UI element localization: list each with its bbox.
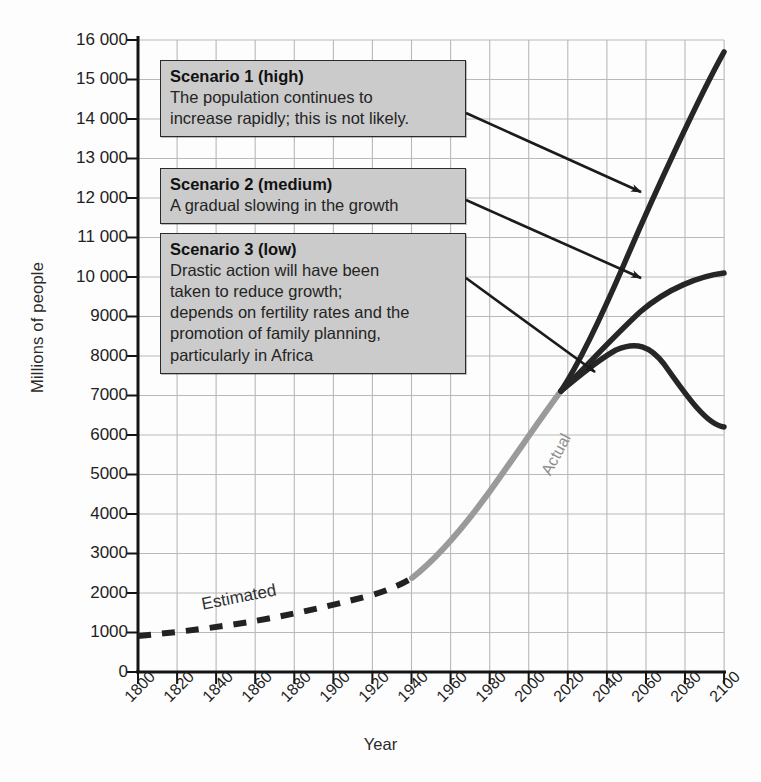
x-tick-label: 2080 (667, 668, 705, 706)
x-tick-label: 1860 (238, 668, 276, 706)
annotation-title-scenario-3: Scenario 3 (low) (170, 239, 456, 260)
annotation-box-scenario-3[interactable]: Scenario 3 (low) Drastic action will hav… (160, 233, 466, 374)
annotation-box-scenario-2[interactable]: Scenario 2 (medium) A gradual slowing in… (160, 168, 466, 224)
x-tick-label: 1880 (277, 668, 315, 706)
annotation-title-scenario-2: Scenario 2 (medium) (170, 174, 456, 195)
x-tick-label: 2020 (550, 668, 588, 706)
x-tick-label: 1900 (316, 668, 354, 706)
annotation-text-scenario-3-line-3: depends on fertility rates and the (170, 302, 456, 323)
x-tick-label: 2000 (511, 668, 549, 706)
annotation-text-scenario-3-line-2: taken to reduce growth; (170, 281, 456, 302)
annotation-text-scenario-3-line-5: particularly in Africa (170, 345, 456, 366)
x-tick-label: 2060 (628, 668, 666, 706)
x-tick-label: 1920 (355, 668, 393, 706)
y-axis-title: Millions of people (28, 233, 47, 423)
annotation-text-scenario-1-line-2: increase rapidly; this is not likely. (170, 108, 456, 129)
annotation-text-scenario-3-line-1: Drastic action will have been (170, 260, 456, 281)
x-tick-label: 1940 (394, 668, 432, 706)
annotation-box-scenario-1[interactable]: Scenario 1 (high) The population continu… (160, 60, 466, 137)
x-tick-label: 1960 (433, 668, 471, 706)
x-tick-label: 2040 (589, 668, 627, 706)
x-tick-label: 2100 (706, 668, 744, 706)
x-axis-title: Year (0, 735, 761, 754)
population-projection-chart: 16 000 15 000 14 000 13 000 12 000 11 00… (0, 0, 761, 782)
x-tick-label: 1800 (121, 668, 159, 706)
annotation-text-scenario-3-line-4: promotion of family planning, (170, 323, 456, 344)
x-tick-label: 1840 (199, 668, 237, 706)
x-tick-label: 1820 (160, 668, 198, 706)
annotation-title-scenario-1: Scenario 1 (high) (170, 66, 456, 87)
x-tick-label: 1980 (472, 668, 510, 706)
annotation-text-scenario-1-line-1: The population continues to (170, 87, 456, 108)
annotation-text-scenario-2-line-1: A gradual slowing in the growth (170, 195, 456, 216)
